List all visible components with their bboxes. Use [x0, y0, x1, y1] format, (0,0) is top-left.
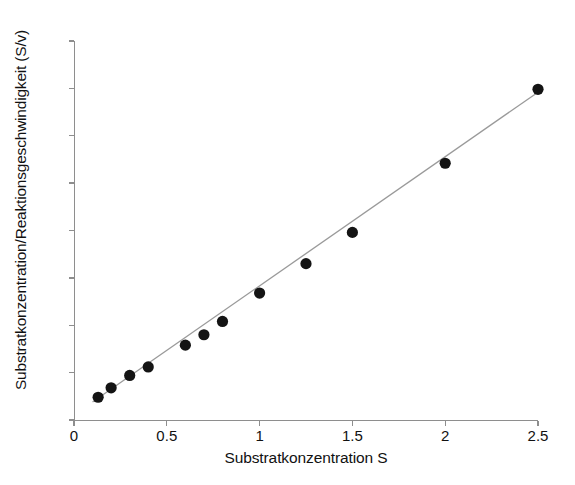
x-tick-label: 1	[255, 427, 263, 444]
x-tick-mark	[259, 421, 260, 426]
data-point	[143, 361, 154, 372]
x-tick-mark	[352, 421, 353, 426]
data-point	[300, 258, 311, 269]
x-tick-label: 0	[70, 427, 78, 444]
data-point	[217, 316, 228, 327]
x-axis-title: Substratkonzentration S	[74, 449, 538, 467]
x-tick-mark	[73, 421, 74, 426]
x-tick-label: 2.5	[528, 427, 549, 444]
x-tick-label: 2	[441, 427, 449, 444]
data-overlay	[74, 41, 538, 420]
x-tick-mark	[445, 421, 446, 426]
plot-area: 0510152025303540 00.511.522.5	[74, 41, 538, 420]
chart-figure: Substratkonzentration/Reaktionsgeschwind…	[0, 0, 575, 485]
y-axis-title: Substratkonzentration/Reaktionsgeschwind…	[12, 0, 38, 420]
data-point	[254, 287, 265, 298]
x-tick-mark	[537, 421, 538, 426]
data-point	[180, 340, 191, 351]
data-point	[532, 84, 543, 95]
x-axis-line	[74, 420, 538, 421]
data-point	[347, 227, 358, 238]
x-tick-label: 0.5	[156, 427, 177, 444]
data-point	[106, 382, 117, 393]
x-tick-mark	[166, 421, 167, 426]
x-tick-label: 1.5	[342, 427, 363, 444]
data-point	[124, 370, 135, 381]
data-point	[198, 329, 209, 340]
data-point	[440, 158, 451, 169]
data-point	[93, 392, 104, 403]
regression-line	[93, 92, 538, 402]
